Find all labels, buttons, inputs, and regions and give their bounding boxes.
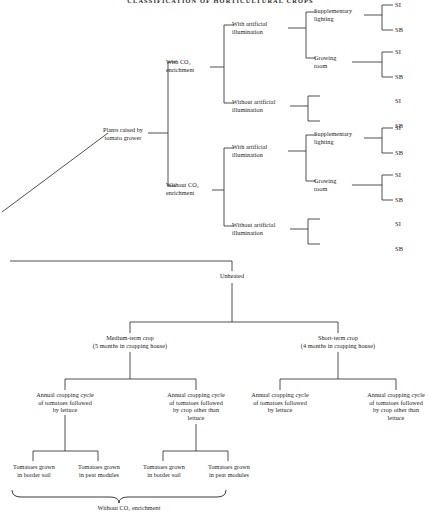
- top-leaf-5: SI: [395, 97, 401, 105]
- top-leaf-14: SB: [395, 245, 403, 253]
- bottom-node-cycle-3: Annual cropping cycle of tomatoes follow…: [235, 391, 325, 414]
- bottom-node-cycle-2: Annual cropping cycle of tomatoes follow…: [151, 391, 241, 421]
- bottom-node-cycle-1: Annual cropping cycle of tomatoes follow…: [20, 391, 110, 414]
- top-root-node: Plants raised by tomato grower: [95, 126, 151, 141]
- top-node-growing-room-2: Growing room: [314, 177, 356, 192]
- top-node-with-co2: With CO₂ enrichment: [166, 58, 212, 73]
- top-leaf-1: SI: [395, 1, 401, 9]
- diagram-sheet: CLASSIFICATION OF HORTICULTURAL CROPS: [0, 0, 441, 522]
- bottom-node-cycle-4: Annual cropping cycle of tomatoes follow…: [351, 391, 441, 421]
- top-node-growing-room-1: Growing room: [314, 54, 356, 69]
- bottom-root-node: Unheated: [206, 272, 258, 280]
- top-leaf-12: SB: [395, 196, 403, 204]
- top-node-with-artificial-illumination-2: With artificial illumination: [232, 143, 290, 158]
- top-node-supplementary-lighting-2: Supplementary lighting: [314, 130, 366, 145]
- bottom-leaf-2: Tomatoes grown in peat modules: [66, 463, 132, 478]
- top-node-without-artificial-illumination-2: Without artificial illumination: [232, 221, 294, 236]
- top-leaf-13: SI: [395, 220, 401, 228]
- top-node-without-artificial-illumination-1: Without artificial illumination: [232, 98, 294, 113]
- bottom-brace-label: Without CO₂ enrichment: [64, 504, 194, 512]
- bottom-leaf-1: Tomatoes grown in border soil: [3, 463, 65, 478]
- top-node-supplementary-lighting-1: Supplementary lighting: [314, 7, 366, 22]
- top-node-without-co2: Without CO₂ enrichment: [166, 181, 216, 196]
- top-leaf-11: SI: [395, 171, 401, 179]
- top-leaf-2: SB: [395, 26, 403, 34]
- top-leaf-3: SI: [395, 48, 401, 56]
- top-leaf-4: SB: [395, 73, 403, 81]
- bottom-leaf-3: Tomatoes grown in border soil: [133, 463, 195, 478]
- top-node-with-artificial-illumination-1: With artificial illumination: [232, 20, 290, 35]
- bottom-node-short-term-crop: Short-term crop (4 months in cropping ho…: [280, 334, 396, 349]
- top-leaf-9: SI: [395, 124, 401, 132]
- top-tree-connectors: [0, 0, 441, 522]
- bottom-node-medium-term-crop: Medium-term crop (5 months in cropping h…: [72, 334, 188, 349]
- bottom-leaf-4: Tomatoes grown in peat modules: [196, 463, 262, 478]
- top-leaf-10: SB: [395, 149, 403, 157]
